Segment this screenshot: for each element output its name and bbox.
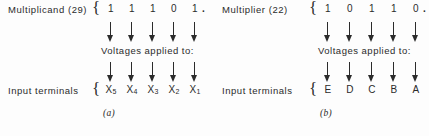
panel-multiplier: Multiplier (22) { 1 0 1 1 0 . Voltages a…	[214, 0, 429, 136]
down-arrow-icon	[185, 62, 205, 84]
multiplicand-bit-0: 1	[101, 3, 121, 14]
multiplier-terminal-columns: E D C B A	[320, 83, 429, 101]
multiplicand-brace: {	[92, 1, 100, 14]
down-arrow-icon	[164, 62, 184, 84]
multiplier-label: Multiplier (22)	[222, 3, 288, 17]
down-arrow-icon	[164, 22, 184, 44]
down-arrow-icon	[122, 62, 142, 84]
terminal-x2: X2	[164, 84, 184, 95]
multiplier-arrow-columns-1	[320, 22, 429, 46]
input-terminals-brace: {	[309, 82, 317, 95]
multiplicand-terminal-columns: X5 X4 X3 X2 X1	[104, 83, 209, 101]
multiplicand-caption-row: Voltages applied to:	[0, 45, 215, 63]
terminal-c: C	[362, 84, 382, 95]
multiplier-radix-point: .	[423, 3, 426, 14]
down-arrow-icon	[384, 62, 404, 84]
multiplier-bit-2: 1	[362, 3, 382, 14]
down-arrow-icon	[101, 22, 121, 44]
multiplier-arrow-columns-2	[320, 62, 429, 84]
multiplier-bit-columns: 1 0 1 1 0 .	[320, 2, 429, 20]
terminal-d: D	[340, 84, 360, 95]
terminal-x4: X4	[122, 84, 142, 95]
down-arrow-icon	[185, 22, 205, 44]
multiplier-bit-1: 0	[340, 3, 360, 14]
terminal-b: B	[384, 84, 404, 95]
multiplicand-bit-1: 1	[122, 3, 142, 14]
down-arrow-icon	[384, 22, 404, 44]
multiplicand-arrow-row-1	[0, 22, 215, 46]
down-arrow-icon	[122, 22, 142, 44]
down-arrow-icon	[318, 62, 338, 84]
panel-a-label-row: (a)	[0, 108, 215, 126]
voltages-applied-caption: Voltages applied to:	[101, 45, 194, 56]
down-arrow-icon	[362, 62, 382, 84]
multiplier-bits-row: Multiplier (22) { 1 0 1 1 0 .	[214, 2, 429, 20]
down-arrow-icon	[101, 62, 121, 84]
panel-multiplicand: Multiplicand (29) { 1 1 1 0 1 . Vol	[0, 0, 215, 136]
multiplier-brace: {	[309, 1, 317, 14]
multiplicand-label: Multiplicand (29)	[8, 3, 87, 17]
down-arrow-icon	[143, 22, 163, 44]
figure-label-b: (b)	[320, 108, 332, 118]
input-terminals-brace: {	[92, 82, 100, 95]
down-arrow-icon	[143, 62, 163, 84]
down-arrow-icon	[406, 22, 426, 44]
input-terminals-label: Input terminals	[222, 84, 293, 98]
multiplier-bit-0: 1	[318, 3, 338, 14]
multiplicand-bit-3: 0	[164, 3, 184, 14]
terminal-e: E	[318, 84, 338, 95]
down-arrow-icon	[340, 22, 360, 44]
terminal-a: A	[406, 84, 426, 95]
multiplicand-radix-point: .	[202, 3, 205, 14]
multiplicand-bits-row: Multiplicand (29) { 1 1 1 0 1 .	[0, 2, 215, 20]
multiplicand-terminals-row: Input terminals { X5 X4 X3 X2 X1	[0, 83, 215, 101]
multiplier-arrow-row-1	[214, 22, 429, 46]
binary-input-terminals-figure: Multiplicand (29) { 1 1 1 0 1 . Vol	[0, 0, 429, 136]
down-arrow-icon	[362, 22, 382, 44]
down-arrow-icon	[406, 62, 426, 84]
multiplier-terminals-row: Input terminals { E D C B A	[214, 83, 429, 101]
terminal-x3: X3	[143, 84, 163, 95]
multiplicand-bit-2: 1	[143, 3, 163, 14]
multiplier-arrow-row-2	[214, 62, 429, 84]
terminal-x5: X5	[101, 84, 121, 95]
multiplicand-bit-columns: 1 1 1 0 1 .	[104, 2, 209, 20]
input-terminals-label: Input terminals	[8, 84, 79, 98]
multiplicand-arrow-columns-2	[104, 62, 209, 84]
multiplier-caption-row: Voltages applied to:	[214, 45, 429, 63]
figure-label-a: (a)	[103, 108, 115, 118]
panel-b-label-row: (b)	[214, 108, 429, 126]
multiplicand-arrow-columns-1	[104, 22, 209, 46]
voltages-applied-caption: Voltages applied to:	[318, 45, 411, 56]
down-arrow-icon	[340, 62, 360, 84]
multiplier-bit-3: 1	[384, 3, 404, 14]
terminal-x1: X1	[185, 84, 205, 95]
multiplicand-arrow-row-2	[0, 62, 215, 84]
down-arrow-icon	[318, 22, 338, 44]
